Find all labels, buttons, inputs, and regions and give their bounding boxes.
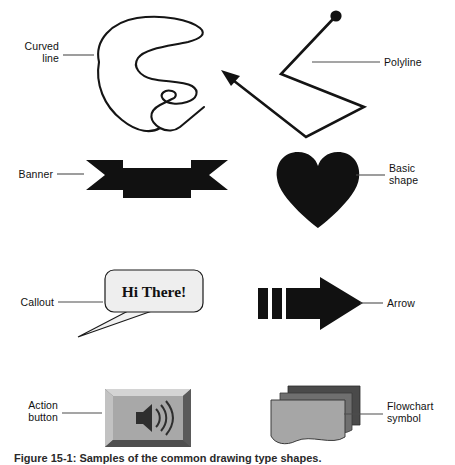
figure-canvas: Hi There! — [0, 0, 455, 465]
shape-flowchart-symbol — [271, 386, 360, 444]
arrow-stripe-1 — [258, 288, 268, 319]
leader-lines — [57, 55, 385, 414]
label-action-button: Action button — [0, 399, 58, 423]
shape-callout: Hi There! — [78, 270, 203, 337]
figure-caption: Figure 15-1: Samples of the common drawi… — [14, 452, 321, 464]
shape-arrow — [258, 277, 363, 330]
shape-polyline — [221, 10, 364, 137]
label-arrow: Arrow — [387, 297, 447, 309]
label-curved-line: Curved line — [0, 40, 59, 64]
label-callout: Callout — [0, 296, 54, 308]
arrow-head-body — [286, 277, 363, 330]
label-polyline: Polyline — [384, 56, 454, 68]
shape-banner — [86, 160, 228, 198]
label-flowchart-symbol: Flowchart symbol — [387, 400, 455, 424]
callout-text: Hi There! — [122, 283, 186, 300]
shape-curved-line — [98, 17, 204, 131]
shape-action-button — [105, 389, 191, 447]
label-basic-shape: Basic shape — [389, 162, 453, 186]
shape-heart — [277, 152, 360, 228]
label-banner: Banner — [0, 168, 53, 180]
callout-tail — [78, 311, 152, 337]
flowchart-sheet-front — [271, 400, 345, 444]
arrow-stripe-2 — [272, 288, 282, 319]
